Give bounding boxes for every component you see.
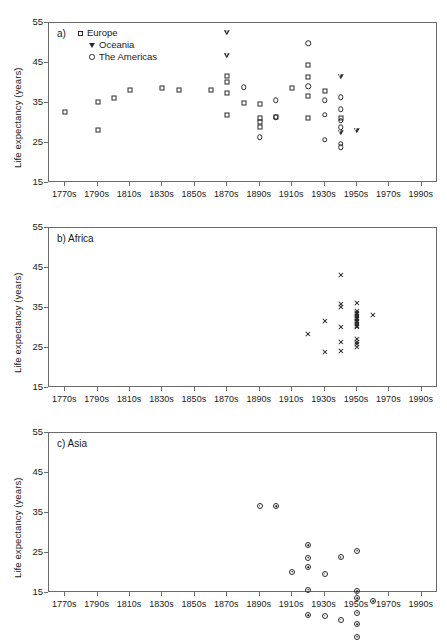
data-point-x: [354, 324, 360, 330]
data-point-x: [338, 304, 344, 310]
x-tick-mark: [226, 592, 227, 596]
data-point-circle: [338, 145, 344, 151]
y-tick-label: 45: [21, 261, 43, 272]
panel-c-plot-area: [49, 433, 436, 591]
data-point-square: [160, 85, 165, 90]
y-tick-mark: [44, 227, 48, 228]
y-tick-label: 35: [21, 301, 43, 312]
x-tick-mark: [226, 387, 227, 391]
y-tick-mark: [44, 182, 48, 183]
x-tick-mark: [97, 182, 98, 186]
y-tick-label: 35: [21, 506, 43, 517]
data-point-circle-dot: [305, 555, 311, 561]
data-point-square: [63, 109, 68, 114]
data-point-circle: [273, 97, 279, 103]
y-tick-mark: [44, 472, 48, 473]
legend-label-europe: Europe: [86, 27, 118, 38]
data-point-square: [128, 88, 133, 93]
data-point-square: [306, 75, 311, 80]
x-tick-mark: [421, 182, 422, 186]
data-point-circle: [273, 115, 279, 121]
y-tick-mark: [44, 142, 48, 143]
x-tick-label: 1990s: [400, 189, 442, 199]
x-tick-mark: [259, 182, 260, 186]
x-tick-mark: [421, 592, 422, 596]
x-tick-mark: [161, 182, 162, 186]
data-point-square: [290, 85, 295, 90]
x-tick-mark: [64, 182, 65, 186]
square-icon: [74, 27, 86, 38]
data-point-circle: [338, 106, 344, 112]
data-point-x: [338, 324, 344, 330]
data-point-x: [305, 331, 311, 337]
data-point-x: [338, 348, 344, 354]
data-point-circle: [338, 95, 344, 101]
legend-item-europe: Europe: [74, 26, 157, 38]
data-point-circle: [306, 83, 312, 89]
y-tick-mark: [44, 512, 48, 513]
data-point-circle: [306, 40, 312, 46]
x-tick-mark: [129, 387, 130, 391]
x-tick-mark: [226, 182, 227, 186]
data-point-square: [225, 91, 230, 96]
data-point-square: [322, 89, 327, 94]
x-tick-mark: [259, 387, 260, 391]
y-tick-label: 25: [21, 341, 43, 352]
data-point-x: [354, 300, 360, 306]
y-tick-mark: [44, 347, 48, 348]
y-tick-mark: [44, 102, 48, 103]
x-tick-mark: [324, 387, 325, 391]
data-point-circle-dot: [305, 612, 311, 618]
panel-b: Life expectancy (years) 1525354555 1770s…: [0, 205, 447, 410]
x-tick-mark: [97, 592, 98, 596]
data-point-x: [370, 312, 376, 318]
circle-icon: [86, 51, 98, 62]
data-point-circle: [257, 135, 263, 141]
x-tick-mark: [388, 182, 389, 186]
x-tick-mark: [388, 592, 389, 596]
panel-b-plot-frame: [48, 227, 437, 387]
data-point-square: [95, 128, 100, 133]
legend-label-oceania: Oceania: [98, 39, 134, 50]
data-point-square: [209, 88, 214, 93]
data-point-circle-dot: [354, 621, 360, 627]
data-point-x: [354, 344, 360, 350]
panel-a-legend: Europe Oceania The Americas: [74, 26, 157, 62]
data-point-circle-dot: [354, 588, 360, 594]
data-point-circle-dot: [338, 554, 344, 560]
x-tick-mark: [64, 387, 65, 391]
x-tick-mark: [64, 592, 65, 596]
data-point-circle-dot: [322, 571, 328, 577]
data-point-triangle: [338, 130, 344, 135]
data-point-circle-dot: [354, 548, 360, 554]
data-point-circle-dot: [354, 610, 360, 616]
data-point-circle: [338, 118, 344, 124]
data-point-circle: [241, 84, 247, 90]
y-tick-mark: [44, 432, 48, 433]
y-tick-mark: [44, 552, 48, 553]
panel-b-y-axis-label: Life expectancy (years): [12, 272, 23, 373]
y-tick-label: 25: [21, 136, 43, 147]
data-point-square: [225, 113, 230, 118]
y-tick-label: 55: [21, 426, 43, 437]
x-tick-mark: [291, 387, 292, 391]
x-tick-mark: [388, 387, 389, 391]
data-point-circle-dot: [305, 564, 311, 570]
data-point-square: [111, 96, 116, 101]
x-tick-mark: [356, 592, 357, 596]
data-point-square: [225, 73, 230, 78]
x-tick-label: 1990s: [400, 599, 442, 609]
legend-item-the-americas: The Americas: [74, 50, 157, 62]
y-tick-label: 35: [21, 96, 43, 107]
data-point-circle-dot: [273, 503, 279, 509]
data-point-circle-dot: [289, 569, 295, 575]
panel-b-plot-area: [49, 228, 436, 386]
triangle-down-icon: [86, 39, 98, 50]
legend-item-oceania: Oceania: [74, 38, 157, 50]
data-point-x: [338, 272, 344, 278]
x-tick-mark: [356, 387, 357, 391]
panel-c: Life expectancy (years) 1525354555 1770s…: [0, 410, 447, 623]
legend-label-the-americas: The Americas: [98, 51, 157, 62]
y-tick-label: 45: [21, 466, 43, 477]
